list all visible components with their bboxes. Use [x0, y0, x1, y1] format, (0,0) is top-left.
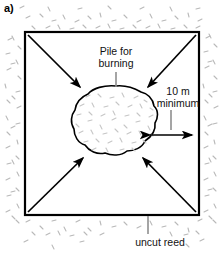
dimension-qualifier: minimum: [141, 97, 215, 109]
pile-label-line2: burning: [70, 57, 162, 69]
reed-burning-diagram: a): [0, 0, 220, 257]
uncut-reed-label: uncut reed: [105, 236, 215, 248]
dimension-value: 10 m: [141, 85, 215, 97]
pile-label-line1: Pile for: [70, 45, 162, 57]
diagram-canvas: [0, 0, 220, 257]
pile-label: Pile for burning: [70, 45, 162, 69]
dimension-label: 10 m minimum: [141, 85, 215, 109]
